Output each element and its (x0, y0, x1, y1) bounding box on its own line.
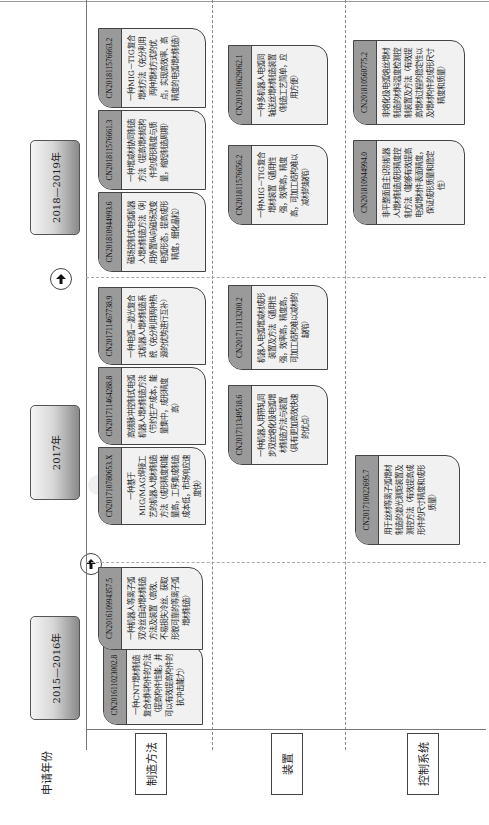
patent-number: CN201810560775.2 (354, 41, 377, 124)
patent-description: 非熔化极电弧熔丝增材制造的材料温度检测控制装置及方法（有效提高增材过程的稳定性以… (377, 41, 451, 124)
patent-card: CN201811576656.2 一种MIG－TIG复合增材装置（通用性强，效率… (228, 145, 328, 225)
patent-description: 磁场控制式电弧机器人增材制造方法（利用外置纵向磁场改变电弧形态，提高成形精度，细… (122, 193, 185, 271)
patent-card: CN201810560775.2 非熔化极电弧熔丝增材制造的材料温度检测控制装置… (353, 40, 465, 125)
patent-card: CN201811576661.3 一种增减材协同制造方法（提高增材结构件的成形精… (98, 110, 206, 190)
patent-number: CN201811576663.2 (99, 29, 122, 107)
period-2017: 2017年 (30, 405, 80, 500)
patent-number: CN201811576656.2 (229, 146, 252, 224)
timeline-arrow-2 (50, 268, 72, 290)
patent-card: CN201611023002.8 一种CNT增材制造复合材料构件的方法（提高构件… (103, 645, 203, 725)
patent-card: CN201711464288.8 高频脉冲控制式电弧机器人增材制造方法（节约生产… (98, 367, 206, 445)
row-label-device: 装置 (271, 733, 303, 795)
patent-description: 非平整面自主识别机器人增材制造成形精度控制方法（能够有效提高电弧增材件表面精度，… (377, 141, 451, 224)
patent-description: 一种多机器人电弧同轴送丝增材制造装置（制造工艺简单，应用方便） (252, 46, 304, 124)
application-year-header: 申请年份 (38, 751, 54, 795)
patent-description: 高频脉冲控制式电弧机器人增材制造方法（节约生产成本，能量集中，成形精度高） (122, 368, 185, 444)
patent-number: CN201810944994.0 (354, 141, 377, 224)
period-2018-2019: 2018—2019年 (30, 140, 80, 235)
patent-card: CN201810944993.6 磁场控制式电弧机器人增材制造方法（利用外置纵向… (98, 192, 206, 272)
patent-roadmap-diagram: 申请年份 2015—2016年 2017年 2018—2019年 制造方法 装置… (0, 0, 489, 825)
patent-number: CN201910629062.1 (229, 46, 252, 124)
patent-description: 一种MIG－TIG复合增材装置（通用性强，效率高，精度高，可加工结构难以减材的缺… (252, 146, 315, 224)
patent-description: 一种基于MIG/MAG焊接工艺的机器人增材制造方法（成形精度和能量高，工序集成制… (122, 448, 206, 524)
patent-number: CN201610994357.5 (99, 568, 122, 649)
period-2015-2016: 2015—2016年 (30, 616, 80, 720)
patent-description: 一种CNT增材制造复合材料构件的方法（提高构件性能，并可以有效提高构件的抗冲击能… (127, 646, 190, 724)
patent-description: 一种机器人等离子弧双冷丝自动增材制造方法及装置（高效、不易损失冷丝、获取形貌可靠… (122, 568, 196, 649)
row-label-control-system: 控制系统 (407, 733, 439, 795)
row-label-divider (86, 729, 486, 730)
patent-card: CN201710022695.7 用于丝材等离子弧增材制造的激光测距装置及测控方… (355, 455, 460, 545)
arrow-right-icon (54, 272, 68, 286)
row-divider (345, 0, 346, 750)
patent-card: CN201910629062.1 一种多机器人电弧同轴送丝增材制造装置（制造工艺… (228, 45, 328, 125)
patent-card: CN201811576663.2 一种MIG－TIG复合增材方法（充分利用两种增… (98, 28, 206, 108)
patent-number: CN201711464288.8 (99, 368, 122, 444)
patent-card: CN201810944994.0 非平整面自主识别机器人增材制造成形精度控制方法… (353, 140, 465, 225)
patent-card: CN201711313200.2 机器人电弧增减材成形装置及方法（通用性强，效率… (228, 285, 328, 370)
row-divider (212, 0, 213, 750)
patent-number: CN201811576661.3 (99, 111, 122, 189)
timeline-axis (86, 0, 87, 750)
patent-description: 一种MIG－TIG复合增材方法（充分利用两种增材方式的优点，实现高效率、高精度的… (122, 29, 185, 107)
patent-number: CN201611023002.8 (104, 646, 127, 724)
patent-description: 一种电弧－激光复合式机器人增材制造系统（充分利用两种热源的优势进行互补） (122, 288, 174, 364)
patent-number: CN201710022695.7 (356, 456, 379, 544)
patent-card: CN201610994357.5 一种机器人等离子弧双冷丝自动增材制造方法及装置… (98, 567, 203, 650)
patent-number: CN201810944993.6 (99, 193, 122, 271)
patent-card: CN201710780653.X 一种基于MIG/MAG焊接工艺的机器人增材制造… (98, 447, 206, 525)
patent-number: CN201711349518.6 (229, 386, 252, 464)
patent-number: CN201711313200.2 (229, 286, 252, 369)
patent-number: CN201711467738.9 (99, 288, 122, 364)
patent-card: CN201711349518.6 一种机器人用带轧同步双丝熔化极电弧增材制造方法… (228, 385, 328, 465)
patent-description: 一种机器人用带轧同步双丝熔化极电弧增材制造方法与装置（具有更加高效快速的优点） (252, 386, 315, 464)
patent-description: 机器人电弧增减材成形装置及方法（通用性强，效率高，精度高，可加工结构难以减材的缺… (252, 286, 315, 369)
patent-number: CN201710780653.X (99, 448, 122, 524)
period-divider (86, 277, 486, 278)
patent-description: 一种增减材协同制造方法（提高增材结构件的成形精度与质量，缩短制造周期） (122, 111, 174, 189)
patent-description: 用于丝材等离子弧增材制造的激光测距装置及测控方法（有效提高成形件的尺寸精度和成形… (379, 456, 442, 544)
row-label-manufacturing-method: 制造方法 (135, 733, 167, 795)
period-divider (86, 562, 486, 563)
patent-card: CN201711467738.9 一种电弧－激光复合式机器人增材制造系统（充分利… (98, 287, 206, 365)
